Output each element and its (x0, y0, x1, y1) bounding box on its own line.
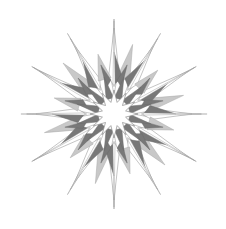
star-burst-figure (0, 0, 226, 229)
figure-canvas: Grayscale twelve-fold symmetric star bur… (0, 0, 226, 229)
